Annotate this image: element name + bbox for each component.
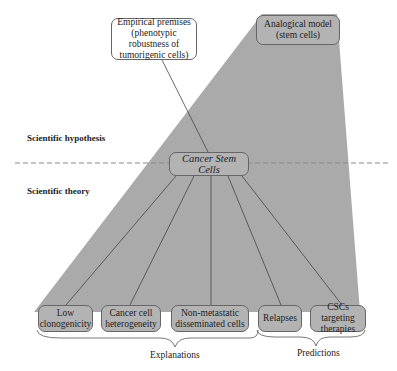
analogical-model-box: Analogical model (stem cells) bbox=[256, 15, 340, 45]
outcome-line2: disseminated cells bbox=[175, 319, 244, 330]
outcome-line2: clonogenicity bbox=[40, 319, 92, 330]
scientific-theory-label: Scientific theory bbox=[27, 186, 90, 196]
explanations-caption: Explanations bbox=[150, 350, 200, 360]
empirical-premises-line2: (phenotypic robustness of bbox=[112, 28, 196, 50]
outcome-line1: Relapses bbox=[263, 313, 297, 324]
outcome-line1: Cancer cell bbox=[110, 308, 153, 319]
empirical-premises-box: Empirical premises (phenotypic robustnes… bbox=[111, 18, 197, 60]
outcome-line2: heterogeneity bbox=[105, 319, 157, 330]
outcome-box-cscs-targeting-therapies: CSCs targeting therapies bbox=[310, 305, 366, 332]
empirical-premises-line1: Empirical premises bbox=[117, 17, 191, 28]
outcome-box-relapses: Relapses bbox=[258, 305, 302, 332]
outcome-line1: CSCs targeting bbox=[311, 302, 365, 324]
outcome-box-low-clonogenicity: Low clonogenicity bbox=[38, 305, 93, 332]
brace-explanations bbox=[37, 330, 258, 347]
outcome-box-non-metastatic: Non-metastatic disseminated cells bbox=[171, 305, 249, 332]
outcome-line1: Low bbox=[57, 308, 74, 319]
analogical-model-line1: Analogical model bbox=[264, 19, 332, 30]
analogical-model-line2: (stem cells) bbox=[276, 30, 320, 41]
scientific-hypothesis-label: Scientific hypothesis bbox=[27, 133, 105, 143]
cancer-stem-cells-box: Cancer Stem Cells bbox=[169, 152, 249, 176]
outcome-line1: Non-metastatic bbox=[181, 308, 239, 319]
cancer-stem-cells-label: Cancer Stem Cells bbox=[170, 153, 248, 175]
empirical-premises-line3: tumorigenic cells) bbox=[120, 50, 189, 61]
predictions-caption: Predictions bbox=[297, 348, 340, 358]
outcome-box-cancer-cell-heterogeneity: Cancer cell heterogeneity bbox=[101, 305, 161, 332]
outcome-line2: therapies bbox=[321, 324, 355, 335]
